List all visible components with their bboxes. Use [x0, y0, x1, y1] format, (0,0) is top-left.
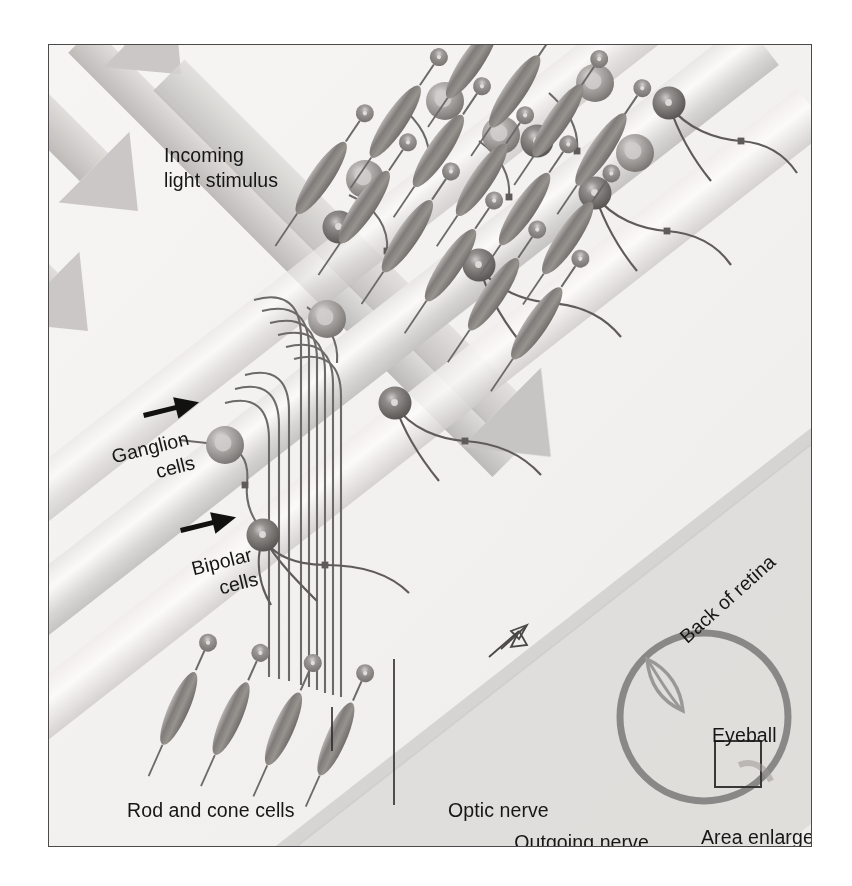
figure-canvas: Incoming light stimulus Ganglion cells B… — [0, 0, 852, 886]
ganglion-cell-body — [308, 300, 346, 338]
bipolar-cell-body — [653, 87, 686, 120]
bipolar-cell-body — [247, 519, 280, 552]
label-rod-and-cone-cells: Rod and cone cells — [127, 798, 295, 823]
label-optic-nerve: Optic nerve — [448, 798, 549, 823]
ganglion-cell-body — [206, 426, 244, 464]
bipolar-cell-body — [379, 387, 412, 420]
figure-frame: Incoming light stimulus Ganglion cells B… — [48, 44, 812, 847]
label-eyeball: Eyeball — [712, 723, 777, 748]
label-incoming-light: Incoming light stimulus — [164, 143, 278, 193]
label-outgoing-impulse: Outgoing nerve impulse to cortex — [507, 830, 656, 847]
ganglion-cell-body — [616, 134, 654, 172]
label-area-enlarged: Area enlarged — [701, 825, 812, 847]
